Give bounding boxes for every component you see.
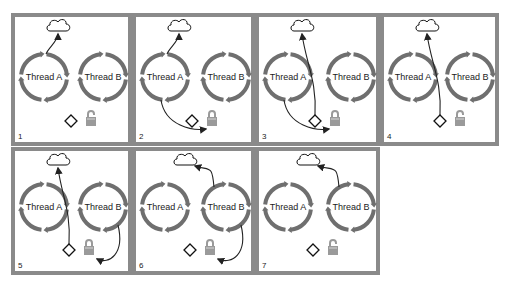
thread-label: Thread A [270, 202, 307, 212]
thread-label: Thread B [451, 72, 488, 82]
panel-number: 7 [262, 261, 267, 270]
thread-label: Thread B [84, 72, 121, 82]
thread-label: Thread B [207, 72, 244, 82]
thread-label: Thread B [332, 202, 369, 212]
cloud-icon [174, 154, 197, 165]
panel-number: 4 [387, 132, 392, 141]
panel-2: Thread AThread B2 [134, 15, 253, 144]
thread-label: Thread B [84, 202, 121, 212]
panel-number: 1 [18, 132, 23, 141]
panel-4: Thread AThread B4 [382, 15, 497, 144]
panel-grid: Thread AThread B1Thread AThread B2Thread… [13, 15, 497, 273]
cloud-icon [416, 20, 439, 31]
panel-3: Thread AThread B3 [257, 15, 378, 144]
thread-label: Thread A [270, 72, 307, 82]
panel-number: 3 [262, 132, 267, 141]
cloud-icon [47, 154, 70, 165]
panel-number: 2 [139, 132, 144, 141]
thread-label: Thread A [147, 72, 184, 82]
cloud-icon [47, 20, 70, 31]
cloud-icon [291, 20, 314, 31]
panel-number: 5 [18, 261, 23, 270]
panel-1: Thread AThread B1 [13, 15, 130, 144]
panel-7: Thread AThread B7 [257, 149, 378, 273]
thread-label: Thread B [332, 72, 369, 82]
thread-label: Thread A [147, 202, 184, 212]
cloud-icon [297, 154, 320, 165]
thread-label: Thread A [26, 72, 63, 82]
panel-number: 6 [139, 261, 144, 270]
thread-label: Thread B [207, 202, 244, 212]
cloud-icon [168, 20, 191, 31]
thread-label: Thread A [395, 72, 432, 82]
panel-5: Thread AThread B5 [13, 149, 130, 273]
panel-6: Thread AThread B6 [134, 149, 253, 273]
thread-label: Thread A [26, 202, 63, 212]
thread-lock-diagram: Thread AThread B1Thread AThread B2Thread… [0, 0, 511, 281]
